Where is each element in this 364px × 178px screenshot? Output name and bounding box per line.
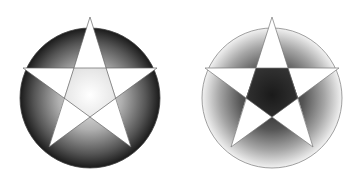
pentagram-dark-circle: [20, 17, 160, 168]
pentagram-light-circle: [202, 17, 342, 168]
pentagram-figures: [0, 0, 364, 178]
